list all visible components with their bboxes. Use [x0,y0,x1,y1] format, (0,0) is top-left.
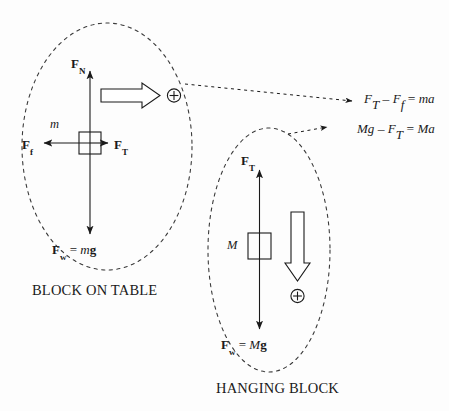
friction-force-label: Ff [22,136,33,155]
equation-hanging-block: Mg – FT = Ma [357,122,435,139]
mass-label-hanging-block: M [227,239,237,252]
physics-free-body-diagram: FN Ff FT m Fw = mg BLOCK ON TABLE FT M F… [0,0,449,411]
positive-direction-arrow-vertical [285,212,310,281]
weight-force-label-hanging-block: Fw = Mg [221,336,267,355]
tension-force-label-block-on-table: FT [114,136,128,155]
weight-force-label-block-on-table: Fw = mg [52,241,96,260]
caption-block-on-table: BLOCK ON TABLE [32,283,157,298]
block-on-table-oval [22,23,192,270]
normal-force-label: FN [71,55,85,74]
positive-direction-arrow-horizontal [101,83,160,108]
leader-line-hanging-block [288,127,327,134]
caption-hanging-block: HANGING BLOCK [216,381,339,396]
mass-label-block-on-table: m [50,118,59,131]
equation-block-on-table: FT – Ff = ma [364,92,435,109]
leader-line-block-on-table [185,84,352,101]
tension-force-label-hanging-block: FT [241,152,255,171]
